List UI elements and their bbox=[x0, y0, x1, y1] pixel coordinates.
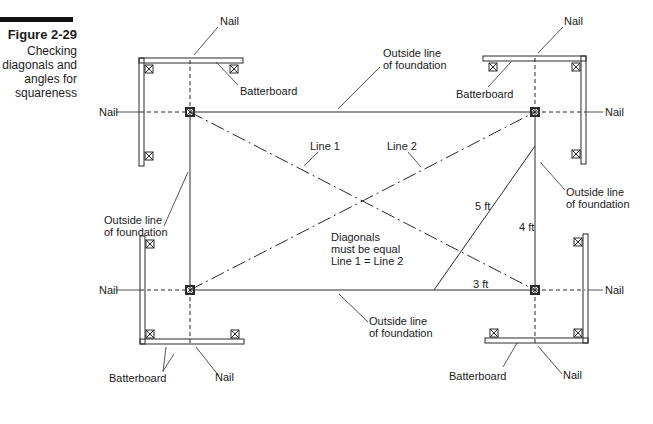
outside-line-left-2: of foundation bbox=[104, 226, 168, 238]
nail-label-bottom-right: Nail bbox=[563, 369, 582, 381]
line-1-label: Line 1 bbox=[310, 140, 340, 152]
nail-label-left-bottom: Nail bbox=[99, 284, 118, 296]
diagonals-note-1: Diagonals bbox=[331, 231, 380, 243]
nail-label-top-right: Nail bbox=[564, 15, 583, 27]
four-ft-label: 4 ft bbox=[519, 221, 534, 233]
foundation-squareness-diagram: Nail Nail Nail Nail Nail Nail Nail Nail … bbox=[0, 0, 653, 424]
five-ft-label: 5 ft bbox=[475, 200, 490, 212]
diagonals-note-2: must be equal bbox=[331, 243, 400, 255]
diagonals-note-3: Line 1 = Line 2 bbox=[331, 255, 403, 267]
outside-line-bottom-2: of foundation bbox=[369, 327, 433, 339]
nail-label-left-top: Nail bbox=[99, 106, 118, 118]
batterboard-label-bottom-right: Batterboard bbox=[449, 370, 506, 382]
nail-label-bottom-left: Nail bbox=[215, 371, 234, 383]
outside-line-left-1: Outside line bbox=[104, 214, 162, 226]
outside-line-right-1: Outside line bbox=[566, 186, 624, 198]
three-ft-label: 3 ft bbox=[473, 278, 488, 290]
batterboard-label-top-right: Batterboard bbox=[456, 88, 513, 100]
batterboard-label-bottom-left: Batterboard bbox=[109, 372, 166, 384]
outside-line-bottom-1: Outside line bbox=[369, 315, 427, 327]
triangle-hypotenuse-5ft bbox=[434, 146, 535, 290]
leader-lines bbox=[116, 27, 603, 376]
line-2-label: Line 2 bbox=[387, 140, 417, 152]
outside-line-top-2: of foundation bbox=[383, 59, 447, 71]
outside-line-right-2: of foundation bbox=[566, 198, 630, 210]
outside-line-top-1: Outside line bbox=[383, 47, 441, 59]
nail-label-right-top: Nail bbox=[605, 106, 624, 118]
nail-label-right-bottom: Nail bbox=[605, 284, 624, 296]
batterboard-label-top-left: Batterboard bbox=[240, 85, 297, 97]
nail-label-top-left: Nail bbox=[220, 15, 239, 27]
